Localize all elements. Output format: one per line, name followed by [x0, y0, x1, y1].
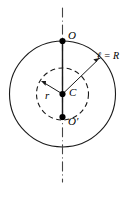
- outer-radius-arrow-line: [63, 61, 98, 94]
- label-point-c: C: [69, 87, 76, 98]
- point-o-prime-marker: [59, 114, 65, 120]
- geometry-figure: O O′ C r ℓ = R: [0, 0, 137, 197]
- label-point-o: O: [68, 30, 76, 41]
- label-inner-radius: r: [45, 90, 49, 101]
- point-o-marker: [59, 38, 65, 44]
- label-outer-radius: ℓ = R: [97, 51, 119, 61]
- inner-radius-arrowhead: [41, 81, 46, 86]
- label-point-o-prime: O′: [68, 116, 78, 127]
- point-c-marker: [59, 91, 65, 97]
